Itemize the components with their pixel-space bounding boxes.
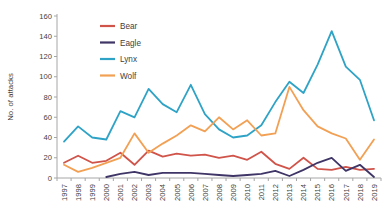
y-axis-title: No. of attacks [6, 73, 15, 121]
x-tick-label: 2017 [342, 184, 351, 201]
legend-label-wolf: Wolf [120, 72, 137, 81]
x-tick-label: 2010 [243, 184, 252, 201]
x-tick-label: 2011 [257, 184, 266, 200]
legend-label-lynx: Lynx [120, 55, 137, 64]
x-tick-label: 1999 [88, 184, 97, 201]
x-tick-label: 2018 [356, 184, 365, 201]
y-tick-label: 60 [44, 113, 52, 122]
legend-item-eagle: Eagle [100, 39, 141, 48]
x-tick-label: 2014 [299, 184, 308, 201]
y-tick-label: 80 [44, 93, 52, 102]
x-tick-label: 2007 [201, 184, 210, 201]
series-line-bear [64, 151, 374, 170]
x-tick-label: 2003 [144, 184, 153, 201]
y-tick-label: 20 [44, 153, 52, 162]
y-tick-label: 120 [39, 52, 52, 61]
y-tick-label: 100 [39, 72, 52, 81]
attacks-line-chart: No. of attacks 0204060801001201401601997… [0, 0, 389, 219]
x-tick-label: 2008 [215, 184, 224, 201]
x-tick-label: 1998 [74, 184, 83, 201]
legend: BearEagleLynxWolf [100, 22, 141, 81]
y-tick-label: 0 [48, 174, 52, 183]
series-line-lynx [64, 31, 374, 141]
chart-canvas: No. of attacks 0204060801001201401601997… [0, 0, 389, 219]
x-tick-label: 2004 [158, 184, 167, 201]
x-tick-label: 1997 [60, 184, 69, 201]
x-tick-label: 2001 [116, 184, 125, 201]
x-tick-label: 2000 [102, 184, 111, 201]
legend-item-bear: Bear [100, 22, 138, 31]
x-tick-label: 2012 [271, 184, 280, 201]
y-tick-label: 140 [39, 32, 52, 41]
x-tick-label: 2013 [285, 184, 294, 201]
x-tick-label: 2016 [327, 184, 336, 201]
y-tick-label: 40 [44, 133, 52, 142]
x-tick-label: 2015 [313, 184, 322, 201]
x-tick-label: 2009 [229, 184, 238, 201]
series-line-eagle [106, 158, 374, 177]
axes: 0204060801001201401601997199819992000200… [39, 12, 381, 201]
x-tick-label: 2002 [130, 184, 139, 201]
legend-item-wolf: Wolf [100, 72, 137, 81]
y-tick-label: 160 [39, 12, 52, 21]
legend-item-lynx: Lynx [100, 55, 137, 64]
legend-label-eagle: Eagle [120, 39, 141, 48]
x-tick-label: 2005 [173, 184, 182, 201]
legend-label-bear: Bear [120, 22, 138, 31]
x-tick-label: 2019 [370, 184, 379, 201]
x-tick-label: 2006 [187, 184, 196, 201]
series-lines [64, 31, 374, 177]
